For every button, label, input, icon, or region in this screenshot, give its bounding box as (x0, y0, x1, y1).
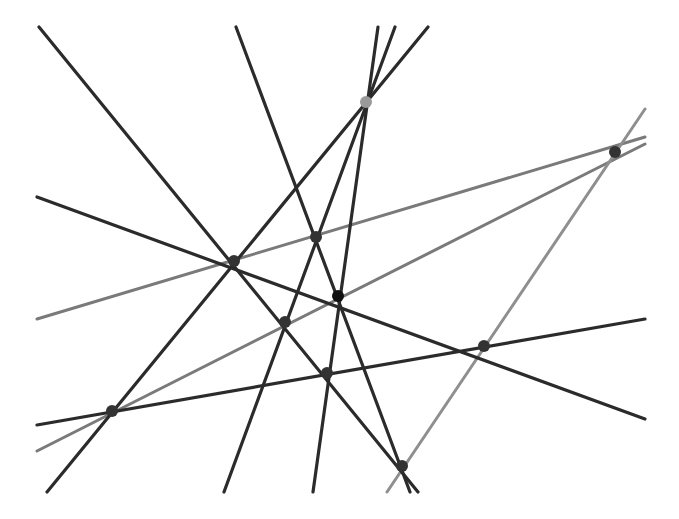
point-g (106, 405, 118, 417)
point-d (279, 316, 291, 328)
point-c (332, 290, 344, 302)
point-p (360, 96, 372, 108)
point-h (396, 460, 408, 472)
line-arrangement-diagram (0, 0, 679, 519)
line-l10 (387, 109, 645, 492)
point-q (609, 146, 621, 158)
line-l3 (37, 197, 645, 419)
diagram-canvas (0, 0, 679, 519)
point-a (228, 255, 240, 267)
lines-layer (37, 27, 645, 492)
line-l7 (37, 319, 645, 425)
point-b (310, 231, 322, 243)
points-layer (106, 96, 621, 472)
point-f (478, 340, 490, 352)
point-e (321, 367, 333, 379)
